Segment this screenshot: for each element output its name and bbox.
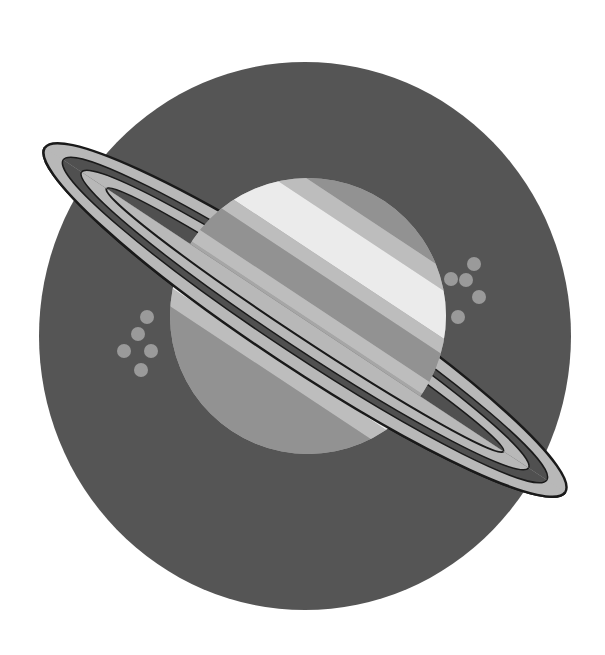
star-dot [144,344,158,358]
star-dot [140,310,154,324]
saturn-illustration [0,0,605,655]
star-dot [472,290,486,304]
star-dot [459,273,473,287]
star-dot [131,327,145,341]
star-dot [444,272,458,286]
star-dot [467,257,481,271]
star-dot [451,310,465,324]
star-dot [117,344,131,358]
star-dot [134,363,148,377]
